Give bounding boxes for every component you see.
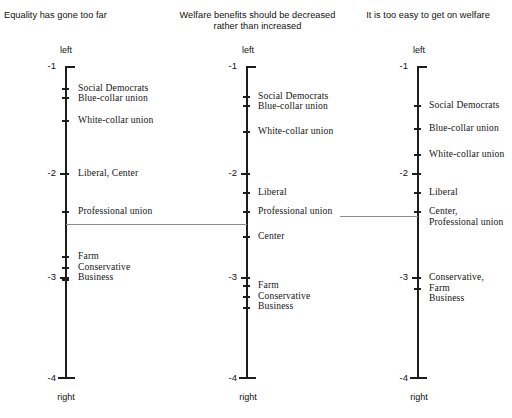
point-tick [62, 120, 69, 122]
point-label: Blue-collar union [258, 101, 328, 112]
axis-cap-top [417, 66, 427, 68]
pole-label-top: left [389, 45, 449, 55]
point-tick [62, 173, 69, 175]
point-tick [414, 277, 421, 279]
point-tick [243, 131, 250, 133]
axis-line [65, 66, 67, 379]
scale-label: -4 [34, 372, 56, 383]
scale-label: -2 [34, 167, 56, 178]
point-label: Social Democrats [429, 100, 499, 111]
point-tick [243, 296, 250, 298]
axis-cap-bottom [410, 377, 427, 379]
figure-canvas: Equality has gone too far left -1 -2 -3 … [0, 0, 512, 418]
point-tick [243, 236, 250, 238]
axis-line [417, 66, 419, 379]
point-label: Blue-collar union [429, 123, 499, 134]
axis-cap-bottom [239, 377, 256, 379]
point-label: Farm Conservative Business [78, 251, 130, 283]
point-label: Farm Conservative Business [258, 280, 310, 312]
scale-label: -3 [34, 271, 56, 282]
scale-label: -4 [215, 372, 237, 383]
scale-label: -4 [386, 372, 408, 383]
panel-title: Equality has gone too far [4, 10, 174, 21]
point-tick [243, 105, 250, 107]
scale-label: -1 [386, 60, 408, 71]
point-label: Professional union [78, 206, 152, 217]
pole-label-top: left [36, 45, 96, 55]
connector-line-panel2-panel3 [340, 216, 418, 217]
point-tick [243, 211, 250, 213]
point-tick [414, 211, 421, 213]
point-tick [62, 211, 69, 213]
scale-label: -3 [386, 271, 408, 282]
point-tick [243, 307, 250, 309]
axis-tick [241, 277, 250, 279]
point-tick [414, 128, 421, 130]
point-label: Liberal [258, 187, 287, 198]
axis-cap-bottom [58, 377, 75, 379]
axis-cap-top [65, 66, 75, 68]
axis-tick [241, 173, 250, 175]
pole-label-bottom: right [36, 392, 96, 402]
point-label: White-collar union [258, 126, 333, 137]
scale-label: -2 [386, 167, 408, 178]
pole-label-bottom: right [389, 392, 449, 402]
point-tick [243, 96, 250, 98]
panel-title: It is too easy to get on welfare [348, 10, 508, 21]
point-label: White-collar union [78, 115, 153, 126]
point-tick [243, 285, 250, 287]
point-tick [243, 192, 250, 194]
connector-line-panel1-panel2 [66, 224, 247, 225]
point-tick [62, 267, 69, 269]
point-tick [414, 105, 421, 107]
scale-label: -3 [215, 271, 237, 282]
scale-label: -1 [34, 60, 56, 71]
point-tick [62, 88, 69, 90]
pole-label-bottom: right [218, 392, 278, 402]
point-tick [62, 279, 69, 281]
point-label: White-collar union [429, 149, 504, 160]
point-tick [62, 256, 69, 258]
axis-tick [412, 173, 421, 175]
point-tick [414, 154, 421, 156]
point-label: Liberal, Center [78, 168, 138, 179]
panel-title: Welfare benefits should be decreased rat… [175, 10, 340, 32]
axis-cap-top [246, 66, 256, 68]
point-label: Professional union [258, 206, 332, 217]
pole-label-top: left [218, 45, 278, 55]
axis-line [246, 66, 248, 379]
point-label: Blue-collar union [78, 93, 148, 104]
point-label: Liberal [429, 187, 458, 198]
point-tick [414, 288, 421, 290]
point-tick [414, 192, 421, 194]
point-label: Conservative, Farm Business [429, 272, 484, 304]
scale-label: -1 [215, 60, 237, 71]
scale-label: -2 [215, 167, 237, 178]
point-label: Center, Professional union [429, 206, 503, 227]
point-tick [62, 97, 69, 99]
point-label: Center [258, 231, 284, 242]
